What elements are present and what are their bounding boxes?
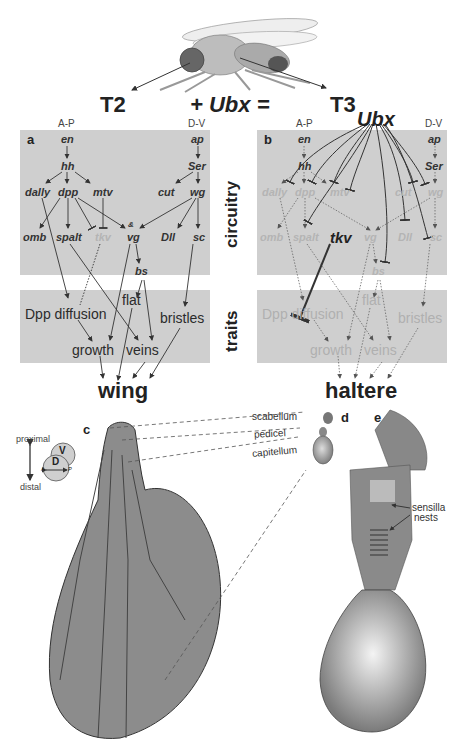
panel-b-axis-dv: D-V xyxy=(425,118,442,129)
output-haltere: haltere xyxy=(325,378,397,404)
label-scabellum: scabellum xyxy=(252,411,297,422)
trait-growth: growth xyxy=(72,342,114,358)
label-t2: T2 xyxy=(100,92,126,118)
gene-b-vg: vg xyxy=(364,231,377,243)
gene-cut: cut xyxy=(158,186,175,198)
panel-c-letter: c xyxy=(83,422,90,437)
gene-b-hh: hh xyxy=(298,160,311,172)
trait-b-bristles: bristles xyxy=(398,310,442,326)
trait-b-dpp-diffusion: Dpp diffusion xyxy=(262,306,343,322)
haltere-large-illustration xyxy=(320,410,427,732)
gene-b-bs: bs xyxy=(372,265,385,277)
haltere-small-illustration xyxy=(313,412,333,464)
gene-dpp: dpp xyxy=(58,186,78,198)
gene-b-ap: ap xyxy=(428,133,441,145)
gene-vg: vg xyxy=(127,231,140,243)
gene-b-wg: wg xyxy=(428,186,443,198)
label-distal: distal xyxy=(20,482,41,492)
trait-flat: flat xyxy=(122,292,141,308)
panel-b-axis-ap: A-P xyxy=(296,118,313,129)
label-nests: nests xyxy=(414,512,438,523)
label-pedicel: pedicel xyxy=(254,427,286,440)
trait-b-growth: growth xyxy=(310,342,352,358)
label-t3: T3 xyxy=(330,92,356,118)
gene-b-dpp: dpp xyxy=(295,186,315,198)
gene-b-cut: cut xyxy=(395,186,412,198)
gene-dll: Dll xyxy=(161,231,175,243)
gene-b-en: en xyxy=(298,133,311,145)
gene-b-tkv: tkv xyxy=(330,229,352,246)
panel-e-letter: e xyxy=(374,410,381,425)
trait-veins: veins xyxy=(126,342,159,358)
gene-and-symbol: & xyxy=(128,220,134,229)
gene-b-ser: Ser xyxy=(425,160,443,172)
label-proximal: proximal xyxy=(16,434,50,444)
trait-bristles: bristles xyxy=(160,310,204,326)
label-plus-ubx: + Ubx = xyxy=(190,92,269,118)
gene-b-omb: omb xyxy=(260,231,283,243)
trait-b-veins: veins xyxy=(364,342,397,358)
gene-spalt: spalt xyxy=(56,231,82,243)
gene-en: en xyxy=(61,133,74,145)
trait-b-flat: flat xyxy=(362,292,381,308)
label-anterior: A xyxy=(41,466,45,472)
panel-a-letter: a xyxy=(27,132,34,147)
panel-a-traits-bg xyxy=(20,290,210,363)
gene-b-dally: dally xyxy=(262,186,287,198)
label-dorsal: D xyxy=(52,456,59,467)
gene-ap: ap xyxy=(191,133,204,145)
panel-a-axis-ap: A-P xyxy=(58,118,75,129)
wing-illustration xyxy=(49,412,306,738)
panel-b-letter: b xyxy=(264,132,272,147)
label-ventral: V xyxy=(59,445,66,456)
gene-wg: wg xyxy=(190,186,205,198)
gene-omb: omb xyxy=(23,231,46,243)
trait-dpp-diffusion: Dpp diffusion xyxy=(25,306,106,322)
label-ubx-source: Ubx xyxy=(357,108,395,131)
panel-d-letter: d xyxy=(341,410,349,425)
panel-a-axis-dv: D-V xyxy=(188,118,205,129)
gene-ser: Ser xyxy=(188,160,206,172)
gene-bs: bs xyxy=(135,265,148,277)
gene-sc: sc xyxy=(193,231,205,243)
gene-b-spalt: spalt xyxy=(293,231,319,243)
fly-illustration xyxy=(132,14,326,92)
gene-hh: hh xyxy=(61,160,74,172)
gene-b-mtv: mtv xyxy=(330,186,350,198)
row-label-traits: traits xyxy=(222,310,242,352)
gene-b-sc: sc xyxy=(430,231,442,243)
gene-dally: dally xyxy=(25,186,50,198)
gene-b-dll: Dll xyxy=(398,231,412,243)
output-wing: wing xyxy=(98,378,148,404)
gene-mtv: mtv xyxy=(93,186,113,198)
gene-tkv: tkv xyxy=(95,231,111,243)
panel-a-circuitry-bg xyxy=(20,130,210,275)
row-label-circuitry: circuitry xyxy=(222,181,242,248)
label-posterior: P xyxy=(68,466,72,472)
